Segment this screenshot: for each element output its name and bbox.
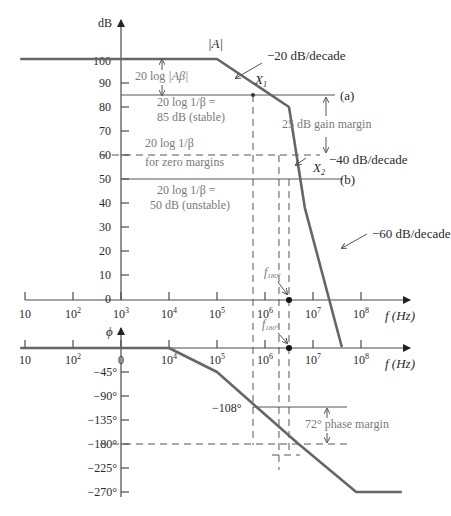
gain-freq-axis-label: f (Hz) [385,308,415,323]
line-b-label: (b) [340,172,355,187]
phase-108-label: −108° [212,401,242,415]
zero-margin-label-1: 20 log 1/β [145,136,194,150]
x2-label: X2 [312,160,325,177]
stable-label-2: 85 dB (stable) [157,110,225,124]
phase-margin-label: 72° phase margin [305,417,389,431]
gain-axis-label: dB [98,16,112,30]
phase-y-tick-label: −270° [87,485,117,499]
slope-60-arrow [342,234,367,248]
gain-y-tick-label: 50 [99,172,111,186]
gain-y-tick-label: 10 [99,268,111,282]
stable-label-1: 20 log 1/β = [157,95,216,109]
zero-margin-label-2: for zero margins [145,155,224,169]
phase-y-tick-label: −45° [93,365,117,379]
phase-y-tick-label: −90° [93,389,117,403]
phase-x-tick-label: 0 [118,353,124,367]
gain-y-tick-label: 80 [99,100,111,114]
slope-20-label: −20 dB/decade [267,48,346,63]
gain-y-tick-label: 100 [93,54,111,68]
gain-x-tick-label: 102 [65,306,81,321]
phase-x-tick-label: 108 [353,352,369,367]
phase-x-tick-label: 104 [161,352,177,367]
gain-x-tick-label: 104 [161,306,177,321]
f180-label-gain: f180° [264,265,281,280]
gain-margin-label: 25 dB gain margin [282,117,371,131]
phase-x-tick-label: 106 [257,352,273,367]
f180-dot-phase [286,345,292,351]
phase-y-tick-label: −135° [87,413,117,427]
f180-dot-gain [286,297,292,303]
phase-x-tick-label: 105 [209,352,225,367]
slope-60-label: −60 dB/decade [372,226,451,241]
slope-40-label: −40 dB/decade [329,152,408,167]
bode-plot: dB f (Hz) ϕ f (Hz) 100908070605040302010… [0,0,451,516]
gain-x-tick-label: 105 [209,306,225,321]
gain-y-tick-label: 40 [99,196,111,210]
gain-y-tick-label: 30 [99,220,111,234]
phase-x-tick-label: 10 [19,353,31,367]
unstable-label-2: 50 dB (unstable) [150,198,230,212]
x1-point [251,93,255,97]
f180-label-phase: f180° [262,317,279,332]
phase-freq-axis-label: f (Hz) [385,356,415,371]
gain-y-tick-label: 20 [99,244,111,258]
phase-x-tick-label: 107 [305,352,321,367]
phase-x-tick-label: 102 [65,352,81,367]
gain-y-tick-label: 90 [99,76,111,90]
loop-gain-label: 20 log |Aβ| [135,69,188,83]
x1-label: X1 [254,72,267,89]
gain-x-tick-label: 108 [353,306,369,321]
gain-y-tick-label: 0 [105,292,111,306]
A-label: |A| [208,36,223,51]
phase-axis-label: ϕ [106,324,113,339]
unstable-label-1: 20 log 1/β = [157,183,216,197]
phase-y-tick-label: −225° [87,461,117,475]
gain-x-tick-label: 103 [113,306,129,321]
gain-x-tick-label: 107 [305,306,321,321]
gain-y-tick-label: 70 [99,124,111,138]
gain-x-tick-label: 10 [19,307,31,321]
line-a-label: (a) [340,88,354,103]
